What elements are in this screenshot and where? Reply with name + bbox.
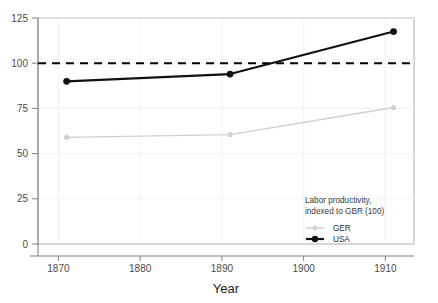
data-point-usa: [63, 78, 70, 85]
data-point-usa: [390, 28, 397, 35]
legend-swatch-marker: [312, 236, 318, 242]
legend-item-label: USA: [333, 235, 350, 244]
x-tick-label: 1880: [129, 263, 152, 274]
legend-caption-line-2: indexed to GBR (100): [305, 207, 384, 216]
x-axis-title: Year: [213, 281, 240, 296]
legend-caption-line-1: Labor productivity,: [305, 196, 371, 205]
x-tick-label: 1900: [293, 263, 316, 274]
legend-swatch-marker: [313, 226, 318, 231]
y-tick-label: 100: [11, 58, 28, 69]
y-tick-label: 50: [17, 148, 29, 159]
x-tick-label: 1870: [47, 263, 70, 274]
data-point-ger: [391, 105, 396, 110]
y-tick-label: 25: [17, 193, 29, 204]
y-tick-group: 0255075100125: [11, 13, 38, 250]
data-point-ger: [227, 132, 232, 137]
y-tick-label: 75: [17, 103, 29, 114]
y-tick-label: 0: [22, 239, 28, 250]
x-tick-group: 18701880189019001910: [47, 256, 397, 274]
x-tick-label: 1910: [374, 263, 397, 274]
legend-item-label: GER: [333, 224, 351, 233]
chart-container: 0255075100125 18701880189019001910 Year …: [0, 0, 438, 303]
x-tick-label: 1890: [211, 263, 234, 274]
line-chart: 0255075100125 18701880189019001910 Year …: [0, 0, 438, 303]
y-tick-label: 125: [11, 13, 28, 24]
data-point-usa: [227, 71, 234, 78]
data-point-ger: [64, 135, 69, 140]
